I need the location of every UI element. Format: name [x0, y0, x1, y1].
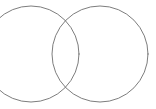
diagram-background: [0, 0, 156, 109]
venn-diagram-svg: [0, 0, 156, 109]
diagram-canvas: [0, 0, 156, 109]
